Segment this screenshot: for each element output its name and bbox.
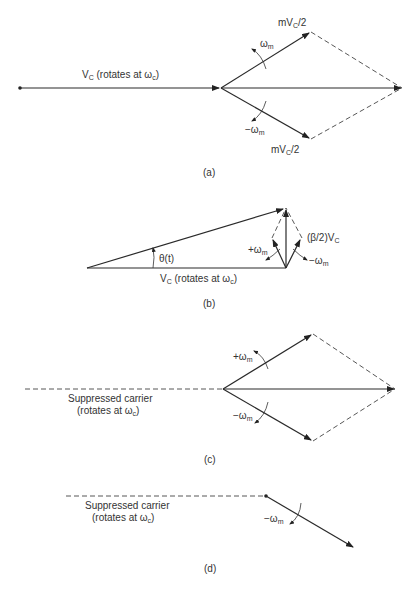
suppressed-carrier-label-line2: (rotates at ωc): [77, 405, 139, 417]
parallelogram-dash-upper: [313, 334, 395, 389]
panel-d: −ωm Suppressed carrier (rotates at ωc) (…: [66, 494, 353, 574]
rotation-label: −ωm: [264, 513, 284, 525]
upper-sideband-vector: [223, 335, 311, 389]
suppressed-carrier-label-line1: Suppressed carrier: [85, 500, 170, 511]
lower-rotation-label: −ωm: [245, 124, 265, 136]
upper-rotation-label: ωm: [260, 38, 274, 50]
carrier-label: VC (rotates at ωc): [82, 69, 159, 81]
upper-rotation-label: +ωm: [233, 351, 253, 363]
suppressed-carrier-label-line1: Suppressed carrier: [68, 393, 153, 404]
parallelogram-dash-lower: [313, 389, 395, 441]
lower-rotation-label: −ωm: [233, 410, 253, 422]
resultant-vector: [87, 209, 283, 268]
upper-sideband-label: mVC/2: [278, 17, 307, 29]
caption-d: (d): [204, 563, 216, 574]
phasor-diagram-figure: VC (rotates at ωc) mVC/2 mVC/2 ωm −ωm (a…: [0, 0, 415, 589]
rotation-arrow-lower-icon: [255, 402, 268, 423]
panel-a: VC (rotates at ωc) mVC/2 mVC/2 ωm −ωm (a…: [18, 17, 402, 178]
rotation-arrow-lower-icon: [252, 101, 266, 121]
lower-sideband-label: mVC/2: [271, 144, 300, 156]
caption-b: (b): [203, 298, 215, 309]
rotation-arrow-right-icon: [293, 249, 307, 260]
angle-label: θ(t): [159, 253, 174, 264]
parallelogram-dash-right: [286, 208, 302, 238]
caption-c: (c): [204, 454, 216, 465]
angle-arc-icon: [153, 248, 154, 268]
suppressed-carrier-label-line2: (rotates at ωc): [92, 512, 154, 524]
left-rotation-label: +ωm: [248, 244, 268, 256]
lower-sideband-vector: [221, 88, 309, 138]
panel-c: +ωm −ωm Suppressed carrier (rotates at ω…: [25, 334, 395, 465]
panel-b: θ(t) VC (rotates at ωc) (β/2)VC +ωm −ωm …: [87, 208, 339, 309]
rotation-arrow-left-icon: [266, 249, 280, 260]
carrier-label: VC (rotates at ωc): [160, 273, 237, 285]
parallelogram-dash-left: [272, 208, 286, 238]
parallelogram-dash-upper: [311, 32, 402, 88]
caption-a: (a): [203, 167, 215, 178]
parallelogram-dash-lower: [311, 88, 402, 139]
right-rotation-label: −ωm: [309, 255, 329, 267]
sideband-label: (β/2)VC: [307, 232, 339, 244]
rotation-arrow-upper-icon: [252, 49, 266, 69]
